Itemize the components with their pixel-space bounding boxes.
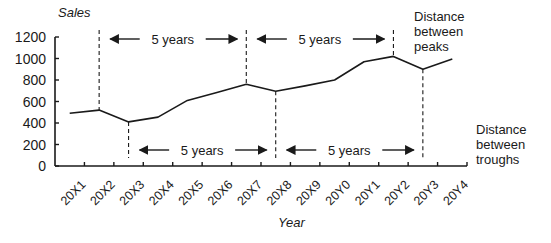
x-tick-label: 20X1: [58, 178, 89, 209]
y-tick-label: 1000: [15, 51, 46, 67]
sales-series-line: [70, 56, 453, 122]
sales-line: [70, 56, 453, 122]
trough-interval-label: 5 years: [328, 143, 371, 158]
peaks-annotation: Distance between peaks: [414, 9, 465, 54]
peaks-label-line1: Distance: [414, 9, 465, 24]
y-tick-label: 0: [38, 158, 46, 174]
trough-interval-label: 5 years: [181, 143, 224, 158]
y-tick-label: 1200: [15, 29, 46, 45]
x-tick-label: 20X9: [293, 178, 324, 209]
x-tick-label: 20X2: [87, 178, 118, 209]
x-tick-label: 20X8: [264, 178, 295, 209]
x-tick-label: 20Y2: [382, 178, 413, 209]
x-tick-label: 20X4: [146, 178, 177, 209]
x-tick-label: 20X7: [235, 178, 266, 209]
peaks-label-line3: peaks: [414, 39, 449, 54]
x-tick-label: 20Y0: [323, 178, 354, 209]
x-tick-label: 20Y4: [441, 178, 472, 209]
peak-interval-label: 5 years: [299, 32, 342, 47]
x-tick-label: 20Y1: [352, 178, 383, 209]
y-tick-label: 400: [23, 115, 47, 131]
x-axis: 20X120X220X320X420X520X620X720X820X920Y0…: [55, 162, 471, 208]
peaks-label-line2: between: [414, 24, 463, 39]
y-tick-label: 800: [23, 72, 47, 88]
y-axis-title: Sales: [58, 5, 91, 20]
troughs-annotation: Distance between troughs: [476, 122, 527, 167]
y-tick-label: 200: [23, 137, 47, 153]
troughs-label-line3: troughs: [476, 152, 520, 167]
x-tick-label: 20Y3: [411, 178, 442, 209]
troughs-label-line2: between: [476, 137, 525, 152]
y-tick-label: 600: [23, 94, 47, 110]
troughs-label-line1: Distance: [476, 122, 527, 137]
y-axis: 020040060080010001200: [15, 29, 59, 174]
sales-cycle-line-chart: Sales 020040060080010001200 20X120X220X3…: [0, 0, 551, 243]
peak-trough-guides: 5 years5 years5 years5 years: [99, 30, 423, 158]
x-tick-label: 20X5: [176, 178, 207, 209]
x-tick-label: 20X3: [117, 178, 148, 209]
x-axis-title: Year: [278, 215, 305, 230]
x-tick-label: 20X6: [205, 178, 236, 209]
peak-interval-label: 5 years: [151, 32, 194, 47]
